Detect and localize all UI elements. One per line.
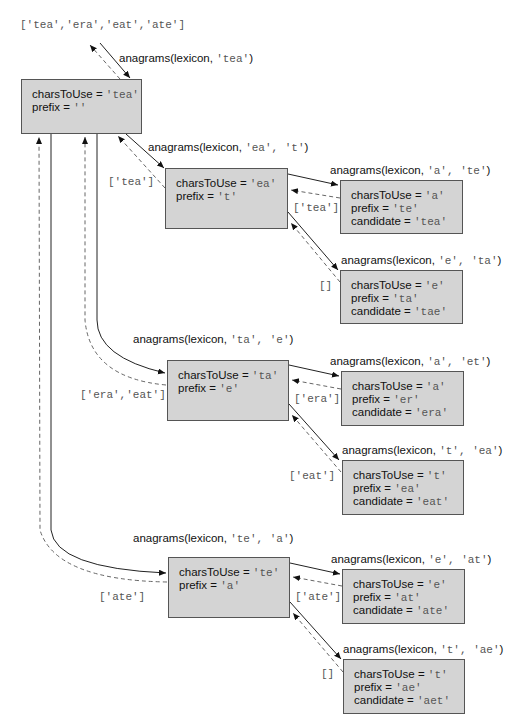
child2-return-label: ['era','eat'] bbox=[80, 389, 166, 401]
call-close: ) bbox=[499, 444, 503, 456]
chars-to-use: charsToUse = 'a' bbox=[352, 380, 463, 393]
call-close: ) bbox=[290, 532, 294, 544]
call-close: ) bbox=[487, 355, 491, 367]
leaf-frame-box: charsToUse = 't' prefix = 'ea' candidate… bbox=[342, 460, 464, 515]
prefix: prefix = 'at' bbox=[353, 591, 464, 604]
leaf-call-label: anagrams(lexicon, 'e', 'ta') bbox=[341, 254, 501, 267]
candidate-label: candidate = bbox=[353, 604, 416, 616]
call-args: 'ea', 't' bbox=[245, 142, 304, 154]
prefix-value: 'at' bbox=[394, 592, 420, 604]
call-close: ) bbox=[498, 254, 502, 266]
chars-value: 't' bbox=[427, 470, 447, 482]
chars-to-use: charsToUse = 'ea' bbox=[176, 177, 287, 190]
leaf-frame-box: charsToUse = 't' prefix = 'ae' candidate… bbox=[343, 659, 465, 714]
leaf-call-label: anagrams(lexicon, 'a', 'et') bbox=[330, 355, 490, 368]
root-call-label: anagrams(lexicon, 'tea') bbox=[119, 52, 253, 65]
prefix-label: prefix = bbox=[32, 101, 73, 113]
candidate-value: 'tae' bbox=[414, 306, 447, 318]
prefix-label: prefix = bbox=[351, 292, 392, 304]
leaf-return-label: [] bbox=[321, 668, 334, 680]
chars-value: 'e' bbox=[425, 280, 445, 292]
prefix: prefix = 'e' bbox=[178, 382, 288, 395]
candidate: candidate = 'ate' bbox=[353, 604, 464, 617]
leaf-return-label: ['era'] bbox=[294, 393, 340, 405]
chars-to-use: charsToUse = 't' bbox=[354, 668, 464, 681]
candidate: candidate = 'tae' bbox=[351, 305, 462, 318]
candidate-value: 'era' bbox=[415, 407, 448, 419]
child2-call-label: anagrams(lexicon, 'ta', 'e') bbox=[133, 333, 293, 346]
candidate-value: 'tea' bbox=[414, 216, 447, 228]
child3-frame-box: charsToUse = 'te' prefix = 'a' bbox=[168, 557, 290, 618]
prefix-value: 'e' bbox=[219, 383, 239, 395]
leaf-call-label: anagrams(lexicon, 't', 'ea') bbox=[342, 444, 502, 457]
call-close: ) bbox=[500, 643, 504, 655]
prefix: prefix = 'ae' bbox=[354, 681, 464, 694]
leaf-return-label: ['eat'] bbox=[289, 470, 335, 482]
chars-label: charsToUse = bbox=[179, 566, 253, 578]
candidate: candidate = 'tea' bbox=[351, 215, 462, 228]
candidate-label: candidate = bbox=[352, 406, 415, 418]
chars-value: 'tea' bbox=[106, 89, 139, 101]
candidate: candidate = 'era' bbox=[352, 406, 463, 419]
call-fn: anagrams(lexicon, bbox=[341, 254, 438, 266]
prefix: prefix = 'te' bbox=[351, 202, 462, 215]
call-close: ) bbox=[290, 333, 294, 345]
candidate-label: candidate = bbox=[351, 215, 414, 227]
call-fn: anagrams(lexicon, bbox=[148, 141, 245, 153]
chars-to-use: charsToUse = 'e' bbox=[351, 279, 462, 292]
call-args: 'ta', 'e' bbox=[230, 334, 289, 346]
candidate: candidate = 'aet' bbox=[354, 694, 464, 707]
child1-call-label: anagrams(lexicon, 'ea', 't') bbox=[148, 141, 308, 154]
chars-label: charsToUse = bbox=[178, 369, 252, 381]
call-fn: anagrams(lexicon, bbox=[133, 333, 230, 345]
chars-to-use: charsToUse = 't' bbox=[353, 469, 463, 482]
chars-value: 'a' bbox=[425, 190, 445, 202]
chars-to-use: charsToUse = 'ta' bbox=[178, 369, 288, 382]
chars-to-use: charsToUse = 'tea' bbox=[32, 88, 141, 101]
child1-frame-box: charsToUse = 'ea' prefix = 't' bbox=[165, 168, 288, 229]
chars-to-use: charsToUse = 'e' bbox=[353, 578, 464, 591]
call-close: ) bbox=[488, 553, 492, 565]
leaf-frame-box: charsToUse = 'e' prefix = 'ta' candidate… bbox=[340, 270, 463, 324]
call-fn: anagrams(lexicon, bbox=[331, 553, 428, 565]
prefix-label: prefix = bbox=[176, 190, 217, 202]
call-fn: anagrams(lexicon, bbox=[119, 52, 216, 64]
chars-value: 'ta' bbox=[252, 370, 278, 382]
chars-label: charsToUse = bbox=[354, 668, 428, 680]
leaf-return-label: ['tea'] bbox=[293, 202, 339, 214]
candidate-value: 'ate' bbox=[416, 605, 449, 617]
chars-to-use: charsToUse = 'a' bbox=[351, 189, 462, 202]
call-fn: anagrams(lexicon, bbox=[343, 643, 440, 655]
candidate: candidate = 'eat' bbox=[353, 495, 463, 508]
chars-label: charsToUse = bbox=[176, 177, 250, 189]
chars-label: charsToUse = bbox=[353, 578, 427, 590]
call-fn: anagrams(lexicon, bbox=[342, 444, 439, 456]
call-close: ) bbox=[249, 52, 253, 64]
leaf-frame-box: charsToUse = 'a' prefix = 'te' candidate… bbox=[340, 180, 463, 234]
call-close: ) bbox=[487, 164, 491, 176]
prefix-label: prefix = bbox=[178, 382, 219, 394]
leaf-frame-box: charsToUse = 'a' prefix = 'er' candidate… bbox=[341, 371, 464, 426]
prefix: prefix = 'ea' bbox=[353, 482, 463, 495]
call-args: 't', 'ae' bbox=[440, 644, 499, 656]
chars-label: charsToUse = bbox=[351, 279, 425, 291]
prefix-label: prefix = bbox=[354, 681, 395, 693]
root-frame-box: charsToUse = 'tea' prefix = '' bbox=[21, 79, 142, 134]
chars-label: charsToUse = bbox=[352, 380, 426, 392]
chars-value: 'a' bbox=[426, 381, 446, 393]
candidate-label: candidate = bbox=[351, 305, 414, 317]
prefix-label: prefix = bbox=[352, 393, 393, 405]
prefix-value: 'ae' bbox=[395, 682, 421, 694]
call-args: 't', 'ea' bbox=[439, 445, 498, 457]
prefix-value: 'ta' bbox=[392, 293, 418, 305]
prefix-label: prefix = bbox=[179, 579, 220, 591]
chars-value: 'e' bbox=[427, 579, 447, 591]
prefix-label: prefix = bbox=[353, 591, 394, 603]
prefix-value: 'er' bbox=[393, 394, 419, 406]
call-args: 'e', 'ta' bbox=[438, 255, 497, 267]
candidate-value: 'aet' bbox=[417, 695, 450, 707]
leaf-call-label: anagrams(lexicon, 'a', 'te') bbox=[330, 164, 490, 177]
chars-value: 't' bbox=[428, 669, 448, 681]
leaf-call-label: anagrams(lexicon, 't', 'ae') bbox=[343, 643, 503, 656]
prefix: prefix = 'ta' bbox=[351, 292, 462, 305]
